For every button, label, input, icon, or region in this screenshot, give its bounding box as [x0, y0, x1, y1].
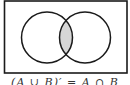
caption: (A ∪ B)′ = A ∩ B [0, 76, 130, 85]
venn-diagram [0, 0, 130, 85]
